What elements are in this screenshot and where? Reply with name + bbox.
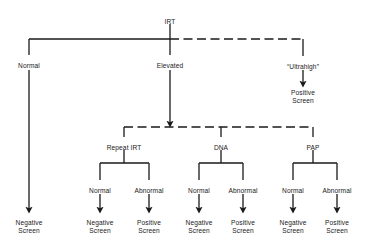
- outcome-line-2: Screen: [231, 227, 255, 235]
- node-repeat-irt: Repeat IRT: [107, 144, 142, 151]
- node-pap-abnormal: Abnormal: [322, 187, 351, 194]
- node-dna-normal-outcome: Negative Screen: [186, 219, 213, 235]
- node-dna: DNA: [214, 144, 228, 151]
- node-dna-abnormal-outcome: Positive Screen: [231, 219, 255, 235]
- outcome-line-1: Negative: [186, 219, 213, 227]
- outcome-line-1: Negative: [87, 219, 114, 227]
- flowchart-connectors: [0, 0, 371, 251]
- outcome-line-2: Screen: [186, 227, 213, 235]
- outcome-line-1: Positive: [325, 219, 349, 227]
- node-elevated-branch: Elevated: [157, 62, 183, 69]
- flowchart-canvas: IRT Normal Elevated “Ultrahigh” Positive…: [0, 0, 371, 251]
- node-repeat-irt-abnormal-outcome: Positive Screen: [137, 219, 161, 235]
- outcome-line-2: Screen: [87, 227, 114, 235]
- outcome-line-2: Screen: [137, 227, 161, 235]
- node-irt: IRT: [165, 18, 176, 25]
- node-ultrahigh-outcome: Positive Screen: [291, 89, 315, 105]
- outcome-line-1: Positive: [137, 219, 161, 227]
- outcome-line-1: Negative: [280, 219, 307, 227]
- node-normal-outcome: Negative Screen: [16, 219, 43, 235]
- node-normal-branch: Normal: [18, 62, 40, 69]
- outcome-line-1: Positive: [231, 219, 255, 227]
- node-pap: PAP: [306, 144, 319, 151]
- node-ultrahigh-branch: “Ultrahigh”: [287, 63, 319, 70]
- node-repeat-irt-normal: Normal: [89, 187, 111, 194]
- node-pap-normal-outcome: Negative Screen: [280, 219, 307, 235]
- outcome-line-2: Screen: [280, 227, 307, 235]
- outcome-line-2: Screen: [291, 97, 315, 105]
- outcome-line-1: Negative: [16, 219, 43, 227]
- outcome-line-2: Screen: [325, 227, 349, 235]
- outcome-line-1: Positive: [291, 89, 315, 97]
- node-pap-abnormal-outcome: Positive Screen: [325, 219, 349, 235]
- node-dna-normal: Normal: [188, 187, 210, 194]
- node-pap-normal: Normal: [282, 187, 304, 194]
- node-repeat-irt-abnormal: Abnormal: [134, 187, 163, 194]
- node-dna-abnormal: Abnormal: [228, 187, 257, 194]
- node-repeat-irt-normal-outcome: Negative Screen: [87, 219, 114, 235]
- outcome-line-2: Screen: [16, 227, 43, 235]
